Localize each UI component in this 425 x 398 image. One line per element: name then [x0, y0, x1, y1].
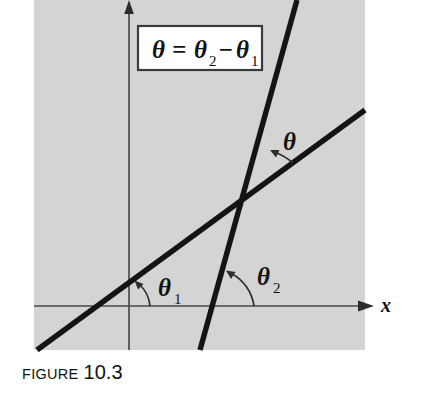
- figure-canvas: θ = θ 2 − θ 1 θ 1 θ 2 θ x: [0, 0, 425, 398]
- equation-theta2: θ: [194, 36, 207, 63]
- theta2-label-symbol: θ: [257, 263, 270, 290]
- caption-number: 10.3: [84, 361, 123, 383]
- caption-word: FIGURE: [22, 366, 79, 382]
- figure-caption: FIGURE10.3: [22, 361, 123, 384]
- equation-equals: =: [172, 36, 186, 63]
- equation-box: θ = θ 2 − θ 1: [138, 26, 262, 70]
- theta-label-symbol: θ: [283, 128, 296, 155]
- theta2-label-subscript: 2: [273, 280, 281, 296]
- equation-theta: θ: [152, 36, 165, 63]
- figure-10-3: θ = θ 2 − θ 1 θ 1 θ 2 θ x FIGURE10.3: [0, 0, 425, 398]
- equation-theta1: θ: [236, 36, 249, 63]
- x-axis-arrowhead: [358, 301, 374, 312]
- theta1-label-subscript: 1: [174, 291, 182, 307]
- x-axis-label: x: [380, 294, 391, 316]
- theta-label: θ: [283, 128, 296, 155]
- equation-minus: −: [218, 36, 233, 63]
- theta1-label-symbol: θ: [158, 274, 171, 301]
- equation-theta1-subscript: 1: [251, 53, 259, 69]
- equation-theta2-subscript: 2: [209, 53, 217, 69]
